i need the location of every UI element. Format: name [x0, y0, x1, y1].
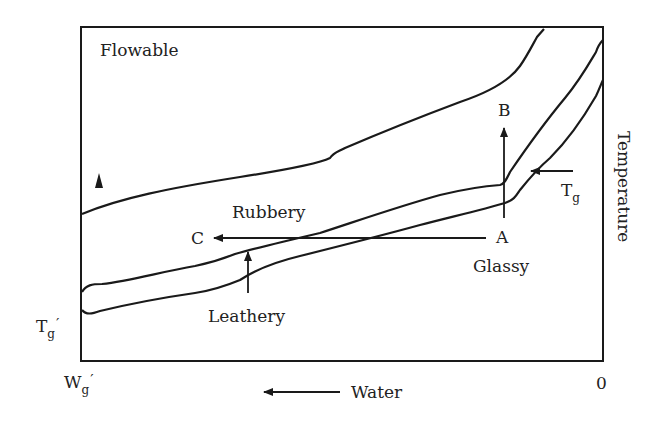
tg-prime-main: T: [36, 316, 47, 336]
rubbery-leathery-boundary-curve: [82, 40, 603, 292]
wg-prime-mark: ′: [90, 371, 93, 389]
state-diagram: [0, 0, 662, 429]
x-axis-tick-wg-prime: Wg′: [64, 374, 94, 391]
x-axis-label-water: Water: [351, 384, 402, 401]
tg-label-sub: g: [572, 191, 580, 205]
point-label-c: C: [191, 230, 204, 247]
point-label-a: A: [496, 229, 508, 246]
region-label-rubbery: Rubbery: [232, 204, 305, 221]
tg-curve-label: Tg: [561, 182, 580, 199]
glass-transition-curve: [82, 80, 603, 314]
triangle-marker-icon: [95, 173, 103, 188]
wg-prime-main: W: [64, 372, 81, 392]
region-label-leathery: Leathery: [208, 308, 285, 325]
y-axis-label-temperature: Temperature: [615, 131, 632, 242]
wg-prime-sub: g: [81, 383, 89, 397]
tg-prime-sub: g: [47, 327, 55, 341]
region-label-glassy: Glassy: [473, 258, 529, 275]
region-label-flowable: Flowable: [100, 42, 179, 59]
tg-label-main: T: [561, 180, 572, 200]
plot-frame: [81, 27, 603, 361]
x-axis-tick-zero: 0: [596, 375, 607, 392]
tg-prime-mark: ′: [56, 315, 59, 333]
y-axis-tick-tg-prime: Tg′: [36, 318, 59, 335]
point-label-b: B: [498, 102, 511, 119]
